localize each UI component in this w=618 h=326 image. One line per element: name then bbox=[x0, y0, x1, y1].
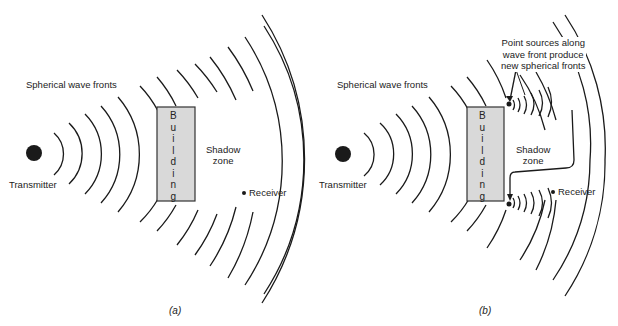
shadow-zone-label-b: Shadowzone bbox=[516, 144, 550, 166]
building-label-a: Building bbox=[170, 110, 177, 202]
point-source-icon bbox=[507, 102, 512, 107]
transmitter-label-b: Transmitter bbox=[319, 179, 367, 190]
receiver-icon-b bbox=[551, 190, 555, 194]
point-source-icon bbox=[507, 202, 512, 207]
point-sources-annotation: Point sources alongwave front producenew… bbox=[500, 37, 586, 72]
receiver-label-b: Receiver bbox=[558, 186, 596, 197]
shadow-zone-label-a: Shadowzone bbox=[206, 144, 240, 166]
wave-fronts-label-a: Spherical wave fronts bbox=[26, 79, 117, 90]
building-label-b: Building bbox=[479, 110, 486, 202]
wave-fronts-label-b: Spherical wave fronts bbox=[337, 79, 428, 90]
transmitter-label-a: Transmitter bbox=[9, 179, 57, 190]
receiver-label-a: Receiver bbox=[249, 187, 287, 198]
transmitter-icon-b bbox=[335, 146, 351, 162]
receiver-icon bbox=[242, 191, 246, 195]
transmitter-icon bbox=[26, 145, 42, 161]
caption-a: (a) bbox=[169, 305, 181, 316]
caption-b: (b) bbox=[479, 305, 491, 316]
